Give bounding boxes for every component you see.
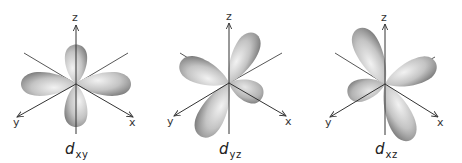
orbital-subscript: xy bbox=[76, 149, 89, 160]
panel-dxy bbox=[17, 25, 133, 134]
d-orbitals-figure: z y x z y x z y x dxy dyz dxz bbox=[0, 0, 462, 163]
orbital-symbol: d bbox=[219, 140, 229, 158]
axis-label-z: z bbox=[226, 11, 232, 22]
panel-dxz bbox=[330, 23, 441, 146]
lobe-right bbox=[76, 72, 131, 96]
lobe-left bbox=[21, 72, 76, 96]
orbital-drawings bbox=[0, 0, 462, 163]
axis-label-z: z bbox=[381, 12, 387, 23]
axis-label-x: x bbox=[129, 117, 136, 128]
axis-label-y: y bbox=[325, 117, 332, 128]
axis-label-y: y bbox=[167, 116, 174, 127]
axis-label-z: z bbox=[72, 12, 78, 23]
axis-label-x: x bbox=[285, 116, 292, 127]
panel-dyz bbox=[174, 23, 286, 143]
orbital-subscript: xz bbox=[386, 149, 398, 160]
axis-label-x: x bbox=[437, 117, 444, 128]
orbital-label-dyz: dyz bbox=[219, 141, 242, 157]
orbital-label-dxz: dxz bbox=[375, 141, 398, 157]
orbital-symbol: d bbox=[65, 140, 75, 158]
axis-label-y: y bbox=[13, 117, 20, 128]
orbital-subscript: yz bbox=[230, 149, 242, 160]
orbital-label-dxy: dxy bbox=[65, 141, 88, 157]
orbital-symbol: d bbox=[375, 140, 385, 158]
